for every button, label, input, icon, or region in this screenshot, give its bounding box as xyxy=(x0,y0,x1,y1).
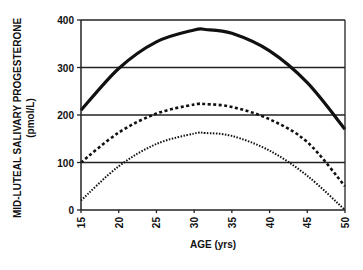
y-tick-label: 300 xyxy=(57,63,74,74)
curves xyxy=(81,29,345,210)
x-tick-label: 20 xyxy=(114,217,125,229)
y-axis-units: (pmol/L) xyxy=(25,98,36,137)
dotted-curve xyxy=(81,132,345,210)
x-tick-label: 25 xyxy=(151,217,162,229)
x-tick-label: 30 xyxy=(189,217,200,229)
chart: 0100200300400 1520253035404550 AGE (yrs)… xyxy=(0,0,363,270)
axes xyxy=(77,20,345,213)
y-tick-label: 200 xyxy=(57,110,74,121)
y-tick-label: 0 xyxy=(68,205,74,216)
x-tick-label: 50 xyxy=(340,217,351,229)
x-tick-labels: 1520253035404550 xyxy=(76,217,351,229)
y-axis-title: MID-LUTEAL SALIVARY PROGESTERONE xyxy=(12,18,23,219)
y-tick-label: 400 xyxy=(57,15,74,26)
x-axis-title: AGE (yrs) xyxy=(190,239,236,250)
x-tick-label: 15 xyxy=(76,217,87,229)
x-tick-label: 40 xyxy=(265,217,276,229)
x-tick-label: 35 xyxy=(227,217,238,229)
x-tick-label: 45 xyxy=(302,217,313,229)
solid-curve xyxy=(81,29,345,130)
y-tick-labels: 0100200300400 xyxy=(57,15,74,216)
y-tick-label: 100 xyxy=(57,158,74,169)
